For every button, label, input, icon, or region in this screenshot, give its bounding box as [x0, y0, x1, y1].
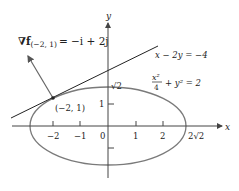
gradient-diagram: ∇f(−2, 1)= −i + 2j y x x − 2y = −4 x² 4 …: [0, 0, 239, 191]
gradient-vector-arrow: [28, 56, 53, 98]
x-tick-label: 0: [100, 131, 105, 141]
line-equation-label: x − 2y = −4: [155, 50, 208, 60]
x-tick-label: 1: [133, 131, 138, 141]
ellipse-label-rest: + y² = 2: [165, 78, 201, 88]
y-tick-1: 1: [99, 99, 104, 109]
ellipse-label-denominator: 4: [154, 83, 159, 92]
ellipse-label-numerator: x²: [152, 73, 160, 82]
point-label: (−2, 1): [55, 103, 85, 113]
x-tick-label: 2√2: [188, 131, 204, 141]
x-tick-label: −1: [74, 131, 87, 141]
x-tick-label: −2: [47, 131, 60, 141]
x-axis-label: x: [225, 122, 230, 132]
x-tick-label: 2: [160, 131, 165, 141]
y-tick-sqrt2: √2: [111, 81, 122, 91]
gradient-label: ∇f(−2, 1)= −i + 2j: [18, 35, 109, 49]
y-axis-label: y: [105, 11, 112, 21]
tangent-point: [51, 96, 55, 100]
